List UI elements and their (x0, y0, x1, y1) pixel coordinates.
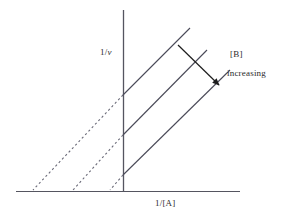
y-axis-label-variable: v (107, 47, 111, 57)
series-line-1-solid (123, 28, 190, 95)
series-line-3-dashed-extension (110, 175, 123, 190)
x-axis-label: 1/[A] (155, 198, 176, 208)
trend-annotation-label: increasing (227, 68, 266, 78)
species-annotation-label: [B] (230, 49, 243, 59)
series-line-2-solid (123, 50, 207, 135)
trend-arrow (178, 45, 219, 85)
series-line-2-dashed-extension (73, 135, 123, 190)
y-axis-label: 1/v (100, 47, 112, 57)
lineweaver-burk-figure: 1/v 1/[A] [B] increasing (0, 0, 284, 224)
plot-canvas (0, 0, 284, 224)
series-line-3-solid (123, 70, 230, 175)
series-line-1-dashed-extension (33, 95, 123, 190)
